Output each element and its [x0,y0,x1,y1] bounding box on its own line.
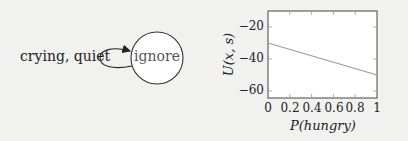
x-axis-label: P(hungry) [270,118,376,133]
state-label: ignore [131,48,183,64]
self-loop-label: crying, quiet [20,48,110,64]
x-tick-label: 0.8 [341,101,369,115]
utility-chart: −20 −40 −60 0 0.2 0.4 0.6 0.8 1 P(hungry… [210,0,408,141]
x-tick-label: 0 [258,101,278,115]
plot-area [268,11,377,98]
state-diagram-graphic [0,0,210,141]
y-tick-label: −60 [230,83,264,97]
state-diagram: ignore crying, quiet [0,0,210,141]
x-tick-label: 1 [367,101,387,115]
y-axis-label: U(x, s) [221,25,236,85]
